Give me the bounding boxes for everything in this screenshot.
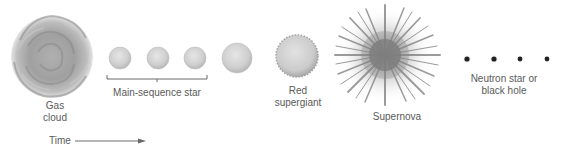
gas-cloud-label-line2: cloud xyxy=(43,112,67,124)
main-sequence-star-icon xyxy=(184,47,206,69)
remnant-label: Neutron star or black hole xyxy=(471,73,538,97)
remnant-label-line1: Neutron star or xyxy=(471,73,538,85)
remnant-label-line2: black hole xyxy=(471,85,538,97)
remnant-dots xyxy=(461,53,549,65)
main-sequence-star-icon xyxy=(147,47,169,69)
main-sequence-stars xyxy=(109,43,252,73)
main-sequence-label: Main-sequence star xyxy=(113,87,201,99)
expanding-star-icon xyxy=(222,43,252,73)
red-supergiant-label-line2: supergiant xyxy=(275,97,322,109)
black-hole-icon xyxy=(545,57,550,62)
red-supergiant-label-line1: Red xyxy=(275,85,322,97)
stellar-evolution-diagram: Gas cloud Main-sequence star Red supergi… xyxy=(0,0,568,146)
time-axis-label: Time xyxy=(49,135,71,146)
time-arrow-icon xyxy=(75,139,146,144)
main-sequence-star-icon xyxy=(109,47,131,69)
red-supergiant-icon xyxy=(276,35,318,77)
red-supergiant-label: Red supergiant xyxy=(275,85,322,109)
neutron-star-icon xyxy=(491,56,496,61)
supernova-icon xyxy=(335,5,440,105)
gas-cloud-icon xyxy=(11,16,93,98)
neutron-star-icon xyxy=(464,56,469,61)
main-sequence-bracket xyxy=(107,75,207,82)
supernova-label: Supernova xyxy=(373,111,421,123)
gas-cloud-label: Gas cloud xyxy=(43,100,67,124)
black-hole-icon xyxy=(518,57,523,62)
gas-cloud-label-line1: Gas xyxy=(43,100,67,112)
